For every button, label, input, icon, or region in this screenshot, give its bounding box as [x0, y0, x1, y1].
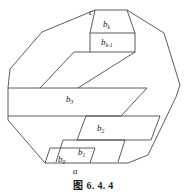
- strip-b3-shape: [8, 88, 147, 116]
- strip-label-b3-subscript: 3: [71, 99, 74, 105]
- strip-label-b0-base: b: [58, 154, 63, 164]
- edge-label-a: a: [73, 167, 78, 176]
- strip-b0-shape: [45, 148, 95, 163]
- strip-label-b2-base: b: [97, 123, 102, 133]
- strip-label-b1-subscript: 1: [83, 152, 86, 158]
- strip-label-bk: bk: [103, 20, 110, 29]
- strip-bk-shape: [90, 10, 135, 33]
- edge-label-c: c: [89, 8, 93, 17]
- connector-lines-upper: [40, 52, 135, 88]
- strip-label-bk-minus-1-base: b: [101, 37, 106, 47]
- strip-label-b1-base: b: [78, 147, 83, 157]
- strip-label-b3-base: b: [66, 94, 71, 104]
- strip-label-bk-subscript: k: [108, 24, 110, 30]
- strip-label-b2: b2: [97, 124, 104, 133]
- strip-label-bk-minus-1-subscript: k-1: [106, 42, 113, 48]
- figure-caption: 图 6. 4. 4: [0, 177, 187, 192]
- strip-bk-minus-1-shape: [90, 33, 135, 52]
- strip-label-b0-subscript: 0: [63, 159, 66, 165]
- strip-label-b0: b0: [58, 155, 65, 164]
- strip-label-b3: b3: [66, 95, 73, 104]
- figure-6-4-4: c bk bk-1 b3 b2 b1 b0 a 图 6. 4. 4: [0, 0, 187, 196]
- strip-b1-shape: [56, 140, 125, 162]
- strip-label-b1: b1: [78, 148, 85, 157]
- strip-label-bk-base: b: [103, 19, 108, 29]
- strip-label-b2-subscript: 2: [102, 128, 105, 134]
- diagram-canvas: [0, 0, 187, 196]
- strip-b2-shape: [77, 116, 160, 140]
- strip-label-bk-minus-1: bk-1: [101, 38, 112, 47]
